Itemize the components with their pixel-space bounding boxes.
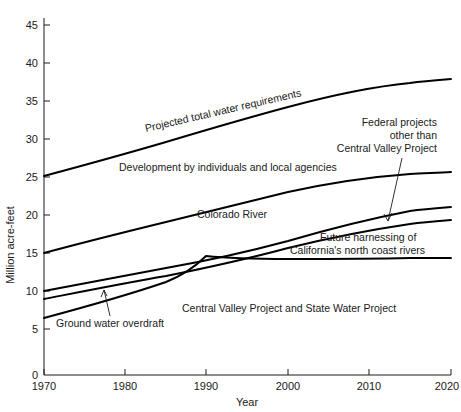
future-harnessing-line-1: Future harnessing of [320,231,416,243]
series-label-central-valley-project-and-state-water-project: Central Valley Project and State Water P… [182,302,396,314]
y-tick-label-5: 5 [32,323,38,335]
y-tick-label-15: 15 [26,247,38,259]
x-tick-label-2000: 2000 [276,380,300,392]
future-harnessing-line-2: California's north coast rivers [290,244,425,256]
federal-projects-line-3: Central Valley Project [337,142,437,154]
x-tick-label-2020: 2020 [435,380,459,392]
water-requirements-chart: 45 40 35 30 25 20 15 10 5 0 1970 1980 19… [0,0,461,412]
y-tick-label-30: 30 [26,133,38,145]
series-label-colorado-river: Colorado River [197,208,268,220]
y-axis-tick-labels: 45 40 35 30 25 20 15 10 5 0 [26,19,38,381]
data-series-group [44,79,451,318]
x-axis-title: Year [236,396,259,408]
federal-projects-line-2: other than [390,129,437,141]
y-tick-label-20: 20 [26,209,38,221]
y-axis-title: Million acre-feet [4,206,16,284]
y-tick-label-25: 25 [26,171,38,183]
x-tick-label-1970: 1970 [32,380,56,392]
y-tick-label-40: 40 [26,57,38,69]
ground-water-overdraft-label: Ground water overdraft [56,317,164,329]
chart-canvas: 45 40 35 30 25 20 15 10 5 0 1970 1980 19… [0,0,461,412]
x-tick-label-1990: 1990 [194,380,218,392]
ground-water-overdraft-leader-line [104,290,110,316]
y-tick-label-45: 45 [26,19,38,31]
x-axis-tick-labels: 1970 1980 1990 2000 2010 2020 [32,380,459,392]
y-tick-label-35: 35 [26,95,38,107]
x-tick-label-2010: 2010 [357,380,381,392]
annotation-federal-projects: Federal projects other than Central Vall… [337,116,437,221]
series-label-development-by-individuals: Development by individuals and local age… [119,161,337,173]
federal-projects-leader-line [388,158,402,221]
x-tick-label-1980: 1980 [113,380,137,392]
y-tick-label-10: 10 [26,285,38,297]
federal-projects-line-1: Federal projects [362,116,437,128]
y-axis-ticks [44,25,50,329]
x-axis-ticks [44,369,451,375]
ground-water-overdraft-arrowhead [101,290,107,297]
